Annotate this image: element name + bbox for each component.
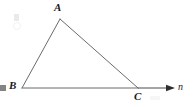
vertex-label-a: A [54,2,61,13]
segment-ac [60,19,138,88]
vertex-label-c: C [134,91,141,102]
ray-label-n: n [178,82,183,92]
geometry-figure: A B C n [0,0,196,107]
vertex-label-b: B [9,80,16,91]
ray-n-arrowhead [166,85,175,91]
triangle-diagram-canvas [0,0,196,107]
segment-ab [22,19,60,88]
